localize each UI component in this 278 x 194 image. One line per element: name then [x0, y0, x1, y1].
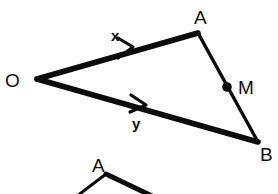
vector-diagram-figure: O A B M x y A — [0, 0, 278, 194]
point-m-dot — [222, 82, 232, 92]
label-a: A — [194, 7, 207, 28]
partial-left-edge — [77, 174, 106, 194]
label-b: B — [260, 144, 273, 165]
label-a-partial: A — [92, 155, 105, 176]
label-vector-y: y — [132, 115, 141, 132]
label-o: O — [5, 70, 20, 91]
diagram-canvas: O A B M x y A — [0, 0, 278, 194]
partial-figure-below — [77, 174, 152, 194]
label-vector-x: x — [111, 27, 120, 44]
label-m: M — [238, 77, 254, 98]
partial-right-edge — [106, 174, 152, 194]
